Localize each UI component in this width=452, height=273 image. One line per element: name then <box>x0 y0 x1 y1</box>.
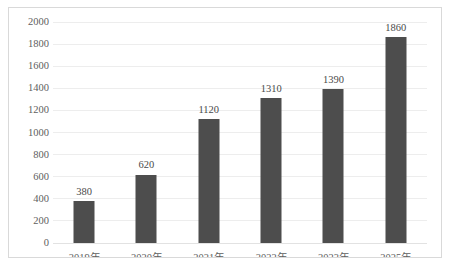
bar-group: 1120 <box>178 22 240 243</box>
plot-area: 3806201120131013901860 <box>53 22 427 243</box>
y-axis: 0200400600800100012001400160018002000 <box>9 22 49 243</box>
bar-value-label: 1310 <box>261 84 282 95</box>
y-axis-tick-label: 1400 <box>13 83 49 94</box>
y-axis-tick-label: 1000 <box>13 127 49 138</box>
y-axis-tick-label: 600 <box>13 171 49 182</box>
y-axis-tick-label: 400 <box>13 194 49 205</box>
bar-value-label: 1120 <box>199 105 220 116</box>
x-axis-tick-label: 2025年 <box>365 253 427 259</box>
x-axis-tick-label: 2022年 <box>240 253 302 259</box>
bar-value-label: 1390 <box>323 75 344 86</box>
bar[interactable] <box>323 89 344 243</box>
x-axis-tick-label: 2020年 <box>115 253 177 259</box>
bar-group: 620 <box>115 22 177 243</box>
x-axis-tick-label: 2019年 <box>53 253 115 259</box>
y-axis-tick-label: 1800 <box>13 39 49 50</box>
y-axis-tick-label: 2000 <box>13 17 49 28</box>
y-axis-tick-label: 800 <box>13 149 49 160</box>
bar[interactable] <box>74 201 95 243</box>
bar-group: 1390 <box>302 22 364 243</box>
bar-value-label: 620 <box>139 160 155 171</box>
x-axis: 2019年2020年2021年2022年2023年2025年 <box>53 247 427 258</box>
bar-group: 380 <box>53 22 115 243</box>
bar-value-label: 1860 <box>385 23 406 34</box>
bar[interactable] <box>198 119 219 243</box>
x-axis-tick-label: 2021年 <box>178 253 240 259</box>
bar[interactable] <box>261 98 282 243</box>
y-axis-tick-label: 0 <box>13 238 49 249</box>
chart-container: 0200400600800100012001400160018002000 38… <box>8 7 442 258</box>
bar[interactable] <box>136 175 157 244</box>
bar-value-label: 380 <box>76 187 92 198</box>
y-axis-tick-label: 1200 <box>13 105 49 116</box>
y-axis-tick-label: 1600 <box>13 61 49 72</box>
y-axis-tick-label: 200 <box>13 216 49 227</box>
bar-group: 1310 <box>240 22 302 243</box>
bar[interactable] <box>385 37 406 243</box>
x-axis-tick-label: 2023年 <box>302 253 364 259</box>
bar-group: 1860 <box>365 22 427 243</box>
